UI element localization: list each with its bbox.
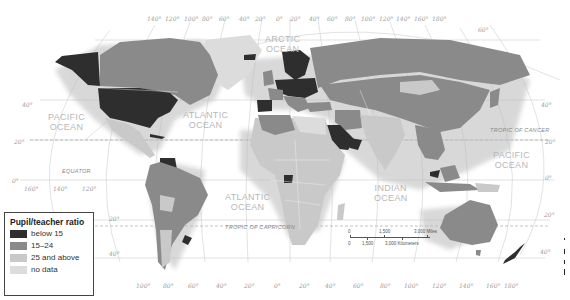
latitude-label: 0° — [545, 174, 552, 181]
longitude-label: 100° — [361, 15, 375, 22]
longitude-label: 140° — [147, 15, 161, 22]
longitude-label: 120° — [379, 15, 393, 22]
longitude-label: 160° — [486, 282, 500, 289]
scale-bar: 0 1,500 3,000 Miles 0 1,500 3,000 Kilome… — [347, 228, 457, 250]
longitude-label: 140° — [396, 15, 410, 22]
longitude-label: 40° — [325, 282, 336, 289]
legend-item-no-data: no data — [10, 264, 88, 275]
scale-line — [350, 237, 430, 238]
longitude-label: 0° — [276, 15, 283, 22]
legend-item-25-and-above: 25 and above — [10, 252, 88, 263]
iberia — [257, 100, 272, 112]
longitude-label: 100° — [184, 15, 198, 22]
longitude-label: 180° — [432, 15, 446, 22]
equator-label: EQUATOR — [62, 168, 91, 174]
legend-label: below 15 — [31, 229, 63, 238]
longitude-label: 120° — [432, 282, 446, 289]
madagascar — [337, 203, 345, 220]
latitude-label: 40° — [541, 101, 552, 108]
tasmania — [476, 250, 481, 256]
indian-ocean-label: INDIANOCEAN — [374, 183, 408, 203]
scale-miles-0: 0 — [348, 229, 351, 234]
legend-label: 15–24 — [31, 241, 53, 250]
latitude-label: 40° — [109, 250, 120, 257]
latitude-label: 20° — [544, 211, 555, 218]
longitude-label: 160° — [414, 15, 428, 22]
atlantic-ocean-south-label: ATLANTICOCEAN — [225, 192, 270, 212]
longitude-label: 0° — [274, 282, 281, 289]
iceland — [244, 54, 256, 60]
legend-swatch — [10, 230, 27, 238]
legend-title: Pupil/teacher ratio — [10, 217, 88, 227]
new-zealand — [503, 243, 525, 264]
longitude-label: 80° — [380, 282, 391, 289]
scale-tick — [367, 237, 368, 240]
latitude-label: 20° — [109, 215, 120, 222]
scale-tick — [427, 235, 428, 238]
latitude-label: 20° — [14, 138, 25, 145]
longitude-label: 100° — [404, 282, 418, 289]
longitude-label: 20° — [299, 282, 310, 289]
scale-km-3000: 3,000 Kilometers — [385, 241, 419, 246]
legend-item-below-15: below 15 — [10, 228, 88, 239]
latitude-label: 40° — [540, 248, 551, 255]
pacific-ocean-west-label: PACIFICOCEAN — [48, 112, 85, 132]
scale-tick — [350, 235, 351, 238]
edge-marks — [564, 238, 568, 278]
latitude-label: 20° — [545, 138, 556, 145]
legend-swatch — [10, 266, 27, 274]
legend-swatch — [10, 242, 27, 250]
latitude-label: 40° — [22, 101, 33, 108]
latitude-label: 60° — [478, 26, 489, 33]
longitude-label: 180° — [504, 282, 518, 289]
pacific-ocean-east-label: PACIFICOCEAN — [493, 150, 530, 170]
legend-label: 25 and above — [31, 253, 80, 262]
legend-swatch — [10, 254, 27, 262]
tropic-of-capricorn-label: TROPIC OF CAPRICORN — [225, 224, 295, 230]
arctic-ocean-label: ARCTICOCEAN — [265, 34, 300, 54]
longitude-label: 60° — [353, 282, 364, 289]
longitude-label: 60° — [188, 282, 199, 289]
longitude-label: 20° — [290, 15, 301, 22]
legend-item-15-24: 15–24 — [10, 240, 88, 251]
scale-tick — [384, 235, 385, 238]
longitude-label: 40° — [309, 15, 320, 22]
longitude-label: 20° — [255, 15, 266, 22]
longitude-label: 140° — [53, 185, 67, 192]
longitude-label: 120° — [82, 185, 96, 192]
scale-miles-1500: 1,500 — [379, 229, 390, 234]
legend: Pupil/teacher ratio below 15 15–24 25 an… — [4, 212, 94, 296]
longitude-label: 120° — [165, 15, 179, 22]
longitude-label: 20° — [244, 282, 255, 289]
scale-km-0: 0 — [348, 241, 351, 246]
longitude-label: 80° — [345, 15, 356, 22]
longitude-label: 60° — [219, 15, 230, 22]
longitude-label: 40° — [239, 15, 250, 22]
longitude-label: 80° — [163, 282, 174, 289]
atlantic-ocean-north-label: ATLANTICOCEAN — [183, 110, 228, 130]
tropic-of-cancer-label: TROPIC OF CANCER — [490, 127, 549, 133]
scale-km-1500: 1,500 — [362, 241, 373, 246]
longitude-label: 140° — [459, 282, 473, 289]
longitude-label: 40° — [216, 282, 227, 289]
latitude-label: 0° — [12, 177, 19, 184]
new-guinea — [475, 183, 500, 192]
scale-miles-3000: 3,000 Miles — [414, 229, 437, 234]
longitude-label: 80° — [202, 15, 213, 22]
longitude-label: 160° — [24, 185, 38, 192]
longitude-label: 100° — [136, 282, 150, 289]
scale-tick — [402, 237, 403, 240]
legend-label: no data — [31, 265, 58, 274]
france — [268, 88, 283, 100]
longitude-label: 60° — [327, 15, 338, 22]
indonesia — [425, 182, 480, 192]
